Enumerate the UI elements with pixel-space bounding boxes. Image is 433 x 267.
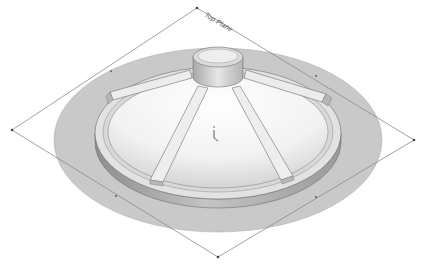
plane-handle-left <box>11 129 14 132</box>
cad-graphics-viewport[interactable]: Top Plane <box>0 0 433 267</box>
central-boss[interactable] <box>193 47 243 87</box>
top-plane-label: Top Plane <box>203 11 234 34</box>
plane-handle-right <box>413 139 416 142</box>
plane-handle-top <box>196 7 199 10</box>
plane-handle-bottom <box>217 256 220 259</box>
